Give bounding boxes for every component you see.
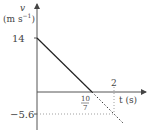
y-tick-label-14: 14 [12,33,25,44]
velocity-line [37,38,92,92]
y-tick-label-neg: −5.6 [10,109,34,120]
velocity-time-graph: v (m s−1) 14 −5.6 10 7 2 t (s) [0,0,150,136]
x-tick-label-frac-den: 7 [83,104,87,112]
x-tick-label-frac-num: 10 [81,95,90,103]
x-axis-label: t (s) [119,95,137,105]
x-tick-label-2: 2 [111,78,117,88]
y-axis-unit: (m s−1) [3,12,35,24]
